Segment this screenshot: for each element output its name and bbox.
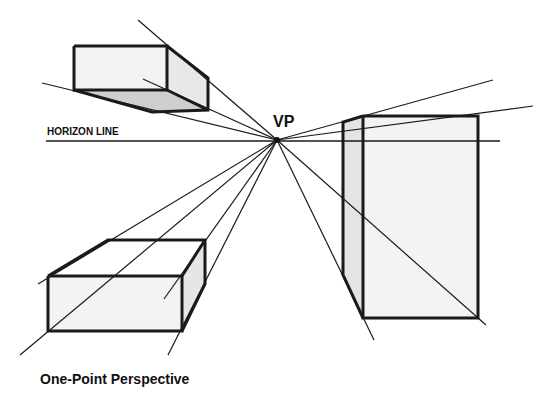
horizon-line-label: HORIZON LINE: [47, 126, 119, 137]
bottom-left-box-top-face: [48, 240, 205, 276]
right-box-side-face: [343, 116, 363, 318]
right-box-front-face: [363, 116, 478, 318]
perspective-drawing: [0, 0, 547, 409]
bottom-left-box-front-face: [48, 276, 182, 331]
diagram-canvas: HORIZON LINE VP One-Point Perspective: [0, 0, 547, 409]
vanishing-point-dot: [274, 137, 280, 143]
box-top-left: [74, 46, 208, 112]
figure-caption: One-Point Perspective: [40, 371, 189, 387]
vanishing-point-label: VP: [273, 113, 294, 131]
